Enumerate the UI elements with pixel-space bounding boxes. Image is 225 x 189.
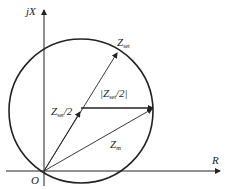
- zm-vector: [44, 109, 152, 171]
- zm-label: Zm: [110, 139, 121, 151]
- jx-axis-label: jX: [26, 6, 36, 17]
- zset-half-label: Zset/2: [51, 106, 72, 118]
- origin-label: O: [31, 175, 39, 186]
- r-axis-label: R: [212, 155, 219, 166]
- radius-label: |Zset/2|: [100, 88, 127, 100]
- zset-half-vector: [44, 112, 80, 171]
- impedance-circle-diagram: jX R O Zset Zset/2 |Zset/2| Zm: [0, 0, 225, 189]
- zset-label: Zset: [117, 37, 130, 49]
